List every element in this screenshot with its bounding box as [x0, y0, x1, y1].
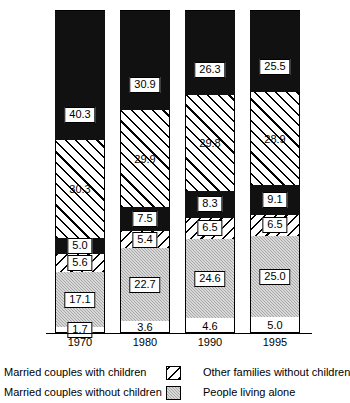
segment-people-living-alone[interactable]: 24.6 [185, 239, 235, 318]
legend-item-people-living-alone[interactable]: People living alone [166, 384, 344, 402]
x-tick-label-1995: 1995 [250, 336, 300, 349]
segment-other-families-with-children[interactable]: 9.1 [250, 185, 300, 215]
x-tick-label-1990: 1990 [185, 336, 235, 349]
other-families-without-children-swatch-icon [166, 366, 181, 380]
segment-married-with-children[interactable]: 30.9 [120, 10, 170, 110]
value-label: 8.3 [197, 196, 222, 212]
value-label: 30.3 [69, 184, 90, 195]
value-label: 24.6 [194, 271, 225, 287]
value-label: 3.6 [137, 322, 152, 333]
value-label: 25.0 [259, 269, 290, 285]
bar-1995[interactable]: 25.5 28.9 9.1 6.5 25.0 5.0 [250, 10, 300, 333]
segment-married-with-children[interactable]: 26.3 [185, 10, 235, 95]
value-label: 6.5 [262, 217, 287, 233]
bar-1970[interactable]: 40.3 30.3 5.0 5.6 17.1 1.7 [55, 10, 105, 333]
legend: Married couples with children Other fami… [0, 358, 346, 403]
value-label: 7.5 [132, 211, 157, 227]
legend-label: People living alone [203, 384, 295, 400]
x-tick-label-1980: 1980 [120, 336, 170, 349]
segment-people-living-alone[interactable]: 25.0 [250, 236, 300, 317]
bar-1990[interactable]: 26.3 29.8 8.3 6.5 24.6 4.6 [185, 10, 235, 333]
bar-1980[interactable]: 30.9 29.9 7.5 5.4 22.7 3.6 [120, 10, 170, 333]
plot-area: 40.3 30.3 5.0 5.6 17.1 1.7 30.9 [0, 0, 346, 345]
segment-other-nonfamily[interactable]: 4.6 [185, 318, 235, 333]
segment-married-without-children[interactable]: 28.9 [250, 92, 300, 185]
segment-married-without-children[interactable]: 29.9 [120, 110, 170, 207]
value-label: 9.1 [262, 192, 287, 208]
legend-item-married-with-children[interactable]: Married couples with children [4, 364, 164, 382]
value-label: 5.0 [267, 320, 282, 331]
segment-other-families-with-children[interactable]: 7.5 [120, 207, 170, 231]
segment-other-families-without-children[interactable]: 6.5 [185, 218, 235, 239]
segment-married-without-children[interactable]: 30.3 [55, 140, 105, 238]
legend-label: Married couples with children [4, 364, 146, 380]
segment-people-living-alone[interactable]: 17.1 [55, 272, 105, 327]
legend-label: Married couples without children [4, 384, 162, 400]
value-label: 30.9 [129, 77, 160, 93]
segment-other-nonfamily[interactable]: 3.6 [120, 321, 170, 333]
segment-married-without-children[interactable]: 29.8 [185, 95, 235, 191]
value-label: 4.6 [202, 321, 217, 332]
segment-married-with-children[interactable]: 25.5 [250, 10, 300, 92]
x-tick-label-1970: 1970 [55, 336, 105, 349]
segment-other-nonfamily[interactable]: 5.0 [250, 317, 300, 333]
segment-people-living-alone[interactable]: 22.7 [120, 248, 170, 321]
value-label: 40.3 [64, 107, 95, 123]
value-label: 5.4 [132, 232, 157, 248]
legend-label: Other families without children [203, 364, 350, 380]
value-label: 25.5 [259, 59, 290, 75]
value-label: 5.6 [67, 255, 92, 271]
legend-item-married-without-children[interactable]: Married couples without children [4, 384, 164, 402]
segment-other-families-with-children[interactable]: 8.3 [185, 191, 235, 218]
value-label: 5.0 [67, 238, 92, 254]
value-label: 28.9 [264, 134, 285, 145]
segment-married-with-children[interactable]: 40.3 [55, 10, 105, 140]
value-label: 22.7 [129, 277, 160, 293]
x-axis-line [46, 333, 312, 334]
value-label: 17.1 [64, 292, 95, 308]
segment-other-families-with-children[interactable]: 5.0 [55, 238, 105, 254]
value-label: 29.8 [199, 138, 220, 149]
value-label: 26.3 [194, 62, 225, 78]
segment-other-families-without-children[interactable]: 6.5 [250, 215, 300, 236]
value-label: 6.5 [197, 220, 222, 236]
segment-other-families-without-children[interactable]: 5.6 [55, 254, 105, 272]
value-label: 29.9 [134, 154, 155, 165]
segment-other-families-without-children[interactable]: 5.4 [120, 231, 170, 248]
legend-item-other-families-without-children[interactable]: Other families without children [166, 364, 344, 382]
people-living-alone-swatch-icon [166, 386, 181, 400]
